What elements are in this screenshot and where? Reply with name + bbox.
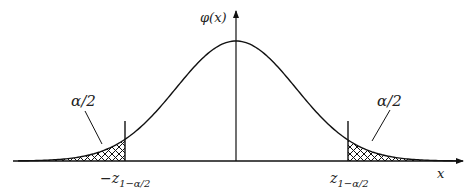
y-axis-label: φ(x) (200, 10, 227, 25)
right-cutoff-label: z1−α/2 (329, 170, 369, 189)
left-cutoff-subscript: 1−α/2 (119, 178, 150, 189)
right-tail-label: α/2 (377, 92, 402, 110)
normal-distribution-figure: φ(x) x α/2 α/2 −z1−α/2 z1−α/2 (0, 0, 472, 194)
left-cutoff-sign: − (100, 170, 112, 186)
left-tail-label: α/2 (71, 92, 96, 110)
right-tail-leader-line (372, 110, 390, 141)
x-axis-label: x (437, 166, 445, 181)
left-cutoff-label: −z1−α/2 (100, 170, 150, 189)
left-tail-leader-line (85, 111, 102, 144)
right-cutoff-subscript: 1−α/2 (337, 178, 368, 189)
diagram-canvas: φ(x) x α/2 α/2 −z1−α/2 z1−α/2 (0, 0, 472, 194)
